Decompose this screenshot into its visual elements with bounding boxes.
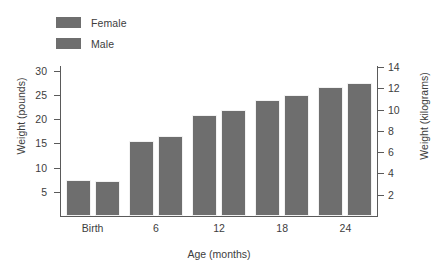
legend-item-male: Male [56, 35, 186, 52]
y-axis-right-tick [378, 131, 384, 132]
chart-legend: Female Male [56, 14, 186, 56]
y-axis-left-tick [54, 168, 60, 169]
y-axis-right-tick-label: 14 [388, 62, 412, 73]
bar-female-12 [192, 115, 217, 216]
y-axis-left-tick-label: 5 [23, 187, 47, 198]
y-axis-left-tick [54, 192, 60, 193]
bar-male-birth [95, 181, 120, 216]
x-axis-title: Age (months) [60, 248, 378, 260]
x-axis-label-24: 24 [315, 223, 375, 234]
x-axis-label-18: 18 [252, 223, 312, 234]
y-axis-right-tick-label: 12 [388, 83, 412, 94]
y-axis-left-tick [54, 71, 60, 72]
legend-item-female: Female [56, 14, 186, 31]
x-axis-label-birth: Birth [63, 223, 123, 234]
y-axis-right-tick-label: 8 [388, 126, 412, 137]
bar-female-6 [129, 141, 154, 216]
legend-swatch-female [56, 17, 81, 28]
y-axis-right-tick [378, 110, 384, 111]
bar-female-18 [255, 100, 280, 216]
y-axis-right-tick-label: 10 [388, 105, 412, 116]
bar-female-birth [66, 180, 91, 216]
y-axis-right-tick [378, 152, 384, 153]
y-axis-right-tick [378, 67, 384, 68]
x-axis-label-12: 12 [189, 223, 249, 234]
y-axis-left-title: Weight (pounds) [15, 56, 27, 176]
y-axis-right-tick [378, 173, 384, 174]
bar-chart-figure: Female Male 51015202530 2468101214 Birth… [0, 0, 441, 277]
y-axis-right-tick [378, 195, 384, 196]
y-axis-left-tick [54, 119, 60, 120]
y-axis-right-tick [378, 88, 384, 89]
bar-male-18 [284, 95, 309, 216]
y-axis-left-tick [54, 143, 60, 144]
bar-male-24 [347, 83, 372, 216]
y-axis-right-tick-label: 2 [388, 190, 412, 201]
x-axis-line [60, 216, 378, 217]
legend-label-female: Female [91, 17, 127, 29]
y-axis-right-tick-label: 4 [388, 168, 412, 179]
bar-group-container [61, 70, 377, 216]
legend-label-male: Male [91, 38, 114, 50]
legend-swatch-male [56, 38, 81, 49]
bar-male-12 [221, 110, 246, 216]
y-axis-right-title: Weight (kilograms) [418, 51, 430, 181]
bar-male-6 [158, 136, 183, 216]
bar-female-24 [318, 87, 343, 216]
x-axis-label-6: 6 [126, 223, 186, 234]
y-axis-right-tick-label: 6 [388, 147, 412, 158]
y-axis-left-tick [54, 95, 60, 96]
